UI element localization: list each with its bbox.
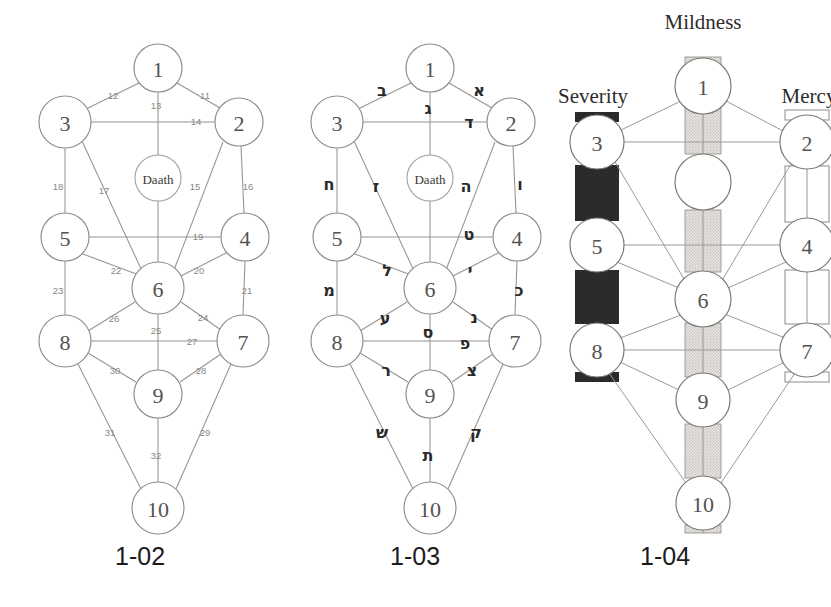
hebrew-letter-cheth: ח [324,175,335,194]
hebrew-letter-teth: ט [464,225,475,244]
hebrew-letter-gimel: ג [424,99,431,118]
node-6[interactable]: 6 [132,262,184,314]
p4-node-unnumbered-daath[interactable] [675,154,731,210]
node-2-label: 2 [234,111,245,136]
p4-node-1-label: 1 [698,75,709,100]
hebrew-letter-shin: ש [376,423,388,442]
p4-node-9[interactable]: 9 [676,373,730,427]
path-number-28: 28 [196,365,207,376]
path-15-line [174,142,223,270]
hebrew-letter-qoph: ק [470,423,482,442]
p4-line-8-10 [609,373,686,483]
diagram-1-02-numbered-paths: Daath 1 3 2 5 4 [0,0,280,607]
path-11-line [177,83,220,108]
daath-label-hebrew: Daath [414,172,446,187]
p4-node-4-label: 4 [802,234,813,259]
p4-node-8-label: 8 [592,339,603,364]
heb-path-20-line [453,252,500,276]
node-5-label: 5 [60,226,71,251]
hebrew-letter-ayin: ע [380,309,391,328]
path-number-17: 17 [99,185,110,196]
p4-node-1[interactable]: 1 [675,58,731,114]
daath-node: Daath [135,155,181,201]
hebrew-letter-lamed: ל [382,261,392,280]
caption-figure-1-02: 1-02 [115,542,165,571]
p4-node-4[interactable]: 4 [780,218,831,272]
p4-node-3[interactable]: 3 [570,115,624,169]
heb-node-3-label: 3 [332,111,343,136]
p4-line-7-10 [721,373,795,483]
hebrew-letter-kaph: כ [514,281,523,300]
p4-line-6-8 [620,315,681,338]
path-number-22: 22 [111,265,122,276]
node-7-label: 7 [238,330,249,355]
heb-node-7[interactable]: 7 [489,315,541,367]
path-number-27: 27 [187,336,198,347]
heb-node-1[interactable]: 1 [406,44,454,92]
path-number-16: 16 [243,181,254,192]
heb-node-3[interactable]: 3 [311,96,363,148]
heb-path-11-line [449,83,492,108]
figure-page: Daath 1 3 2 5 4 [0,0,831,607]
path-16-line [241,146,244,213]
path-number-26: 26 [109,313,120,324]
p4-node-10[interactable]: 10 [676,476,730,530]
p4-line-1-2 [726,101,783,131]
p4-line-4-6 [728,262,786,288]
hebrew-letter-tau: ת [423,446,434,465]
heb-node-10[interactable]: 10 [404,482,456,534]
path-number-11: 11 [200,90,210,101]
p4-node-2[interactable]: 2 [780,115,831,169]
node-8[interactable]: 8 [39,315,91,367]
p4-node-9-label: 9 [698,389,709,414]
node-4[interactable]: 4 [221,213,269,261]
heb-node-7-label: 7 [510,330,521,355]
p4-line-7-9 [728,362,785,390]
pillar-label-severity: Severity [558,84,628,108]
pillar-label-mercy: Mercy [782,84,831,108]
p4-node-6-label: 6 [698,288,709,313]
node-1-label: 1 [153,57,164,82]
heb-node-2[interactable]: 2 [487,98,535,146]
node-5[interactable]: 5 [41,213,89,261]
p4-node-6[interactable]: 6 [675,271,731,327]
heb-node-9[interactable]: 9 [406,370,454,418]
path-number-20: 20 [194,265,205,276]
path-20-line [181,252,228,276]
path-number-13: 13 [151,100,162,111]
p4-node-7[interactable]: 7 [780,323,831,377]
node-3[interactable]: 3 [39,96,91,148]
path-number-31: 31 [105,427,116,438]
path-number-12: 12 [108,90,119,101]
heb-node-6[interactable]: 6 [404,262,456,314]
node-6-label: 6 [153,277,164,302]
hebrew-letter-beth: ב [377,81,387,100]
hebrew-letter-vau: ו [517,175,523,194]
diagram-1-04-three-pillars: 1 3 2 5 4 6 [545,0,831,607]
daath-label: Daath [142,172,174,187]
heb-node-6-label: 6 [425,277,436,302]
hebrew-letter-tzaddi: צ [467,361,477,380]
path-number-25: 25 [151,325,162,336]
heb-path-16-line [513,146,516,213]
p4-node-5[interactable]: 5 [570,218,624,272]
heb-node-8-label: 8 [332,330,343,355]
node-8-label: 8 [60,330,71,355]
node-9[interactable]: 9 [134,370,182,418]
p4-node-2-label: 2 [802,131,813,156]
p4-node-8[interactable]: 8 [570,323,624,377]
hebrew-letter-zayin: ז [373,177,379,196]
node-1[interactable]: 1 [134,44,182,92]
node-10[interactable]: 10 [132,482,184,534]
heb-node-5[interactable]: 5 [313,213,361,261]
path-17-line [82,141,142,271]
heb-node-8[interactable]: 8 [311,315,363,367]
node-10-label: 10 [147,497,169,522]
p4-line-1-3 [621,101,681,130]
node-7[interactable]: 7 [217,315,269,367]
path-number-15: 15 [190,181,201,192]
pillar-label-mildness: Mildness [664,10,741,34]
heb-node-4[interactable]: 4 [493,213,541,261]
heb-path-15-line [446,142,495,270]
node-2[interactable]: 2 [215,98,263,146]
